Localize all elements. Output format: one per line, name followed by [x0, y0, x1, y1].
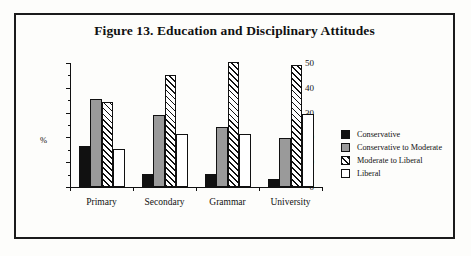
- y-tick-minor: [68, 175, 71, 176]
- legend-swatch-solid-gray-icon: [341, 143, 350, 152]
- bar-university-conservative-to-moderate: [279, 138, 291, 187]
- y-tick-major: [66, 137, 70, 138]
- x-tick: [196, 187, 197, 191]
- y-axis-title: %: [40, 135, 47, 145]
- bar-university-conservative: [268, 179, 280, 187]
- bar-secondary-conservative: [142, 174, 154, 187]
- legend-item-moderate-to-liberal[interactable]: Moderate to Liberal: [341, 154, 442, 167]
- y-tick-minor: [68, 100, 71, 101]
- x-axis-label-secondary: Secondary: [144, 197, 184, 207]
- bar-university-liberal: [302, 114, 314, 187]
- bar-grammar-moderate-to-liberal: [228, 62, 240, 187]
- legend-item-conservative[interactable]: Conservative: [341, 128, 442, 141]
- y-axis: [70, 63, 71, 187]
- legend-label: Conservative to Moderate: [357, 143, 442, 152]
- x-tick: [259, 187, 260, 191]
- x-tick: [322, 187, 323, 191]
- y-tick-major: [66, 88, 70, 89]
- bar-secondary-moderate-to-liberal: [165, 75, 177, 187]
- y-tick-minor: [68, 150, 71, 151]
- y-tick-label: 50: [305, 58, 314, 68]
- bar-secondary-conservative-to-moderate: [153, 115, 165, 187]
- bar-grammar-liberal: [239, 134, 251, 187]
- legend: ConservativeConservative to ModerateMode…: [341, 128, 442, 180]
- bar-primary-moderate-to-liberal: [102, 102, 114, 187]
- legend-item-liberal[interactable]: Liberal: [341, 167, 442, 180]
- bar-grammar-conservative: [205, 174, 217, 187]
- legend-swatch-solid-black-icon: [341, 130, 350, 139]
- y-tick-minor: [68, 75, 71, 76]
- x-axis-label-grammar: Grammar: [209, 197, 245, 207]
- legend-item-conservative-to-moderate[interactable]: Conservative to Moderate: [341, 141, 442, 154]
- y-tick-label: 40: [305, 83, 314, 93]
- y-tick-major: [66, 113, 70, 114]
- bar-primary-conservative-to-moderate: [90, 99, 102, 187]
- legend-label: Liberal: [357, 169, 381, 178]
- bar-primary-conservative: [79, 146, 91, 187]
- bar-primary-liberal: [113, 149, 125, 187]
- bar-university-moderate-to-liberal: [291, 65, 303, 187]
- x-tick: [133, 187, 134, 191]
- legend-swatch-diagonal-hatch-icon: [341, 156, 350, 165]
- y-tick-major: [66, 162, 70, 163]
- legend-label: Conservative: [357, 130, 400, 139]
- figure-frame: Figure 13. Education and Disciplinary At…: [14, 13, 455, 239]
- x-axis-label-university: University: [270, 197, 310, 207]
- plot-area: 01020304050 PrimarySecondaryGrammarUnive…: [70, 63, 322, 187]
- y-tick-minor: [68, 125, 71, 126]
- x-tick: [70, 187, 71, 191]
- bar-secondary-liberal: [176, 134, 188, 187]
- bar-grammar-conservative-to-moderate: [216, 127, 228, 187]
- y-tick-major: [66, 63, 70, 64]
- legend-swatch-solid-white-icon: [341, 169, 350, 178]
- x-axis-label-primary: Primary: [86, 197, 117, 207]
- chart-title: Figure 13. Education and Disciplinary At…: [16, 23, 453, 39]
- legend-label: Moderate to Liberal: [357, 156, 422, 165]
